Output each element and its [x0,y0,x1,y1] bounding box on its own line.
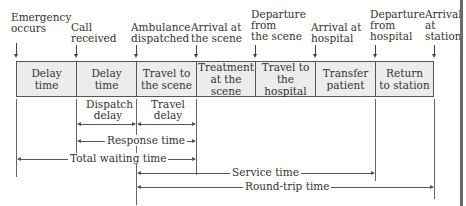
event-label-line: station [425,31,462,42]
event-label-line: the scene [191,33,242,44]
phase-label-line: Return [379,67,429,79]
phase-label-line: Delay [31,67,61,79]
event-label-line: the scene [251,31,306,42]
travel-delay-arrow [138,124,195,125]
guide-line-emergency [16,99,17,177]
arrow-arrival-at-station [434,45,435,55]
event-label-line: occurs [11,23,71,34]
label-round-trip-time: Round-trip time [243,181,331,192]
phase-travel-to-scene: Travel tothe scene [137,62,197,96]
page-edge-border [460,0,463,206]
phase-label-line: Delay [91,67,121,79]
guide-line-arrival-scene [196,99,197,175]
event-call-received: Call received [71,22,117,44]
phase-label-line: at the scene [197,73,255,97]
phase-travel-to-hospital: Travel tothe hospital [256,62,316,96]
phase-treatment-at-scene: Treatmentat the scene [197,62,256,96]
event-departure-from-hospital: Departure from hospital [370,9,425,42]
label-total-waiting-time: Total waiting time [68,153,168,164]
event-arrival-at-hospital: Arrival at hospital [311,22,361,44]
event-arrival-at-station: Arrival at station [425,9,462,42]
phase-label-line: time [31,79,61,91]
phase-delay-time-1: Delaytime [17,62,77,96]
phase-label-line: Travel to [256,61,315,73]
arrow-departure-from-scene [255,45,256,55]
phase-label-line: to station [379,79,429,91]
arrow-call-received [76,45,77,55]
phase-label-line: the scene [141,79,192,91]
phase-label-line: patient [323,79,369,91]
event-label-line: received [71,33,117,44]
arrow-departure-from-hospital [375,45,376,55]
event-label-line: dispatched [131,33,191,44]
event-emergency-occurs: Emergency occurs [11,12,71,34]
phase-label-line: the hospital [256,73,315,97]
arrow-arrival-at-hospital [315,45,316,55]
event-ambulance-dispatched: Ambulance dispatched [131,22,191,44]
arrow-ambulance-dispatched [136,45,137,55]
phase-label-line: Transfer [323,67,369,79]
dispatch-delay-arrow [78,124,135,125]
sub-label-line: delay [86,110,130,121]
label-travel-delay: Travel delay [144,99,192,121]
guide-line-arrival-station [434,99,435,199]
phase-label-line: Treatment [197,61,255,73]
timeline-bar: Delaytime Delaytime Travel tothe scene T… [16,61,434,97]
sub-label-line: delay [146,110,190,121]
guide-line-call-received [76,99,77,153]
label-response-time: Response time [105,135,187,146]
phase-transfer-patient: Transferpatient [316,62,376,96]
guide-line-departure-hospital [375,99,376,181]
phase-delay-time-2: Delaytime [77,62,137,96]
event-label-line: hospital [311,33,361,44]
phase-label-line: time [91,79,121,91]
event-departure-from-scene: Departure from the scene [251,9,306,42]
phase-return-to-station: Returnto station [376,62,433,96]
event-arrival-at-scene: Arrival at the scene [191,22,242,44]
event-label-line: hospital [370,31,425,42]
label-service-time: Service time [230,167,301,178]
arrow-arrival-at-scene [196,45,197,55]
label-dispatch-delay: Dispatch delay [84,99,132,121]
phase-label-line: Travel to [141,67,192,79]
arrow-emergency-occurs [16,43,17,55]
